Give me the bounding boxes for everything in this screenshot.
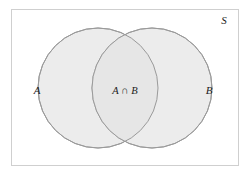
set-a-label: A [33, 84, 41, 96]
venn-diagram-canvas: S A B A ∩ B [0, 0, 249, 177]
intersection-label: A ∩ B [111, 85, 138, 96]
set-b-label: B [206, 84, 213, 96]
venn-diagram-figure: S A B A ∩ B [0, 0, 249, 177]
universal-set-label: S [221, 14, 227, 26]
